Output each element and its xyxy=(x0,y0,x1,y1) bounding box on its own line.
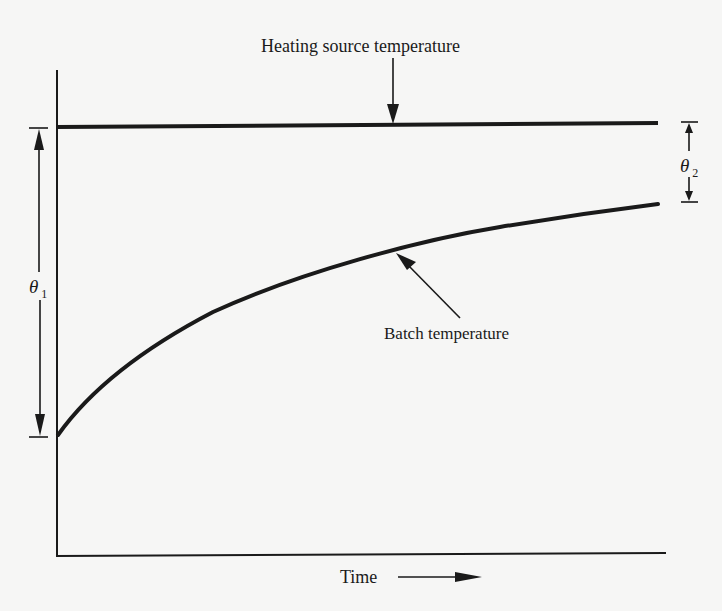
theta2-label: θ2 xyxy=(680,156,698,175)
x-axis xyxy=(56,553,666,556)
heating-source-label: Heating source temperature xyxy=(261,37,460,55)
batch-temperature-label: Batch temperature xyxy=(384,325,509,342)
theta2-subscript: 2 xyxy=(692,166,698,180)
theta1-symbol: θ xyxy=(29,276,38,297)
batch-pointer-arrow-icon xyxy=(396,253,460,318)
theta1-subscript: 1 xyxy=(41,287,47,301)
heating-source-line xyxy=(57,123,658,127)
heating-source-pointer-arrow-icon xyxy=(387,58,399,124)
theta2-symbol: θ xyxy=(680,155,689,176)
x-axis-label: Time xyxy=(340,568,377,586)
theta1-label: θ1 xyxy=(29,277,47,296)
diagram-canvas xyxy=(0,0,722,611)
time-arrow-icon xyxy=(398,572,482,582)
batch-temperature-curve xyxy=(58,204,658,435)
